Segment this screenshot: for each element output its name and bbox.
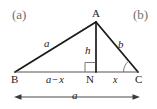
panel-tag-right: (b) (133, 8, 148, 21)
side-ba-line (15, 22, 96, 72)
segment-label-nc: x (113, 75, 117, 85)
side-label-ac: b (118, 39, 124, 50)
dimension-arrow-label: a (72, 90, 78, 101)
side-ac-line (96, 22, 138, 72)
right-angle-marker-icon (85, 63, 95, 73)
vertex-label-a: A (92, 8, 100, 19)
segment-bn-term-x: x (59, 74, 64, 85)
segment-bn-operator: − (51, 74, 59, 85)
dimension-arrow-head-left-icon (14, 94, 22, 100)
vertex-label-b: B (11, 74, 18, 85)
geometry-figure: (a) (b) A B N C a b h a−x x a (0, 0, 157, 109)
panel-tag-left: (a) (12, 8, 26, 21)
dimension-arrow-head-right-icon (133, 94, 141, 100)
segment-label-bn: a−x (46, 75, 64, 86)
vertex-label-n: N (86, 74, 94, 85)
side-label-ba: a (44, 38, 50, 49)
altitude-label-h: h (85, 45, 91, 56)
vertex-label-c: C (135, 74, 142, 85)
angle-arc-marker-icon (124, 61, 129, 72)
